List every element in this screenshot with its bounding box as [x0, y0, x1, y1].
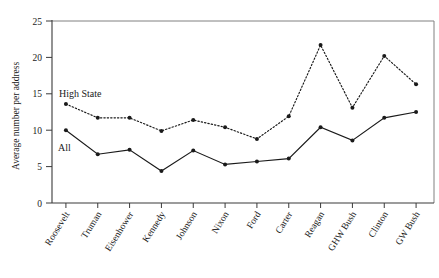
chart-container: Average number per address 0 5 10 15 20	[0, 0, 439, 278]
y-tick-label: 20	[33, 53, 43, 63]
data-point	[414, 110, 418, 114]
x-axis-category-label: Roosevelt	[43, 209, 72, 247]
x-axis-category-labels: RooseveltTrumanEisenhowerKennedyJohnsonN…	[43, 209, 422, 253]
y-axis-title: Average number per address	[11, 61, 21, 170]
series-label-all: All	[58, 142, 71, 153]
series-layer	[64, 43, 418, 173]
data-point	[319, 43, 323, 47]
series-line	[66, 45, 416, 139]
line-chart: Average number per address 0 5 10 15 20	[0, 0, 439, 278]
data-point	[287, 114, 291, 118]
data-point	[64, 128, 68, 132]
x-axis-category-label: Johnson	[174, 210, 199, 242]
data-point	[350, 106, 354, 110]
x-axis-category-label: Reagan	[303, 210, 327, 240]
data-point	[159, 169, 163, 173]
x-axis-category-label: Eisenhower	[103, 209, 136, 253]
data-point	[191, 149, 195, 153]
x-axis-category-label: GHW Bush	[326, 210, 358, 253]
y-tick-label: 15	[33, 89, 43, 99]
x-axis-category-label: Kennedy	[140, 210, 167, 245]
y-tick-label: 5	[37, 162, 42, 172]
data-point	[96, 152, 100, 156]
data-point	[287, 157, 291, 161]
x-axis-category-label: Nixon	[210, 210, 231, 236]
y-tick-label: 10	[33, 126, 43, 136]
series-high-state	[64, 43, 418, 141]
y-tick-label: 25	[33, 17, 43, 27]
series-all	[64, 110, 418, 173]
series-label-high-state: High State	[59, 88, 102, 99]
y-tick-5: 5	[37, 162, 52, 172]
data-point	[159, 129, 163, 133]
y-axis-ticks: 0 5 10 15 20 25	[33, 17, 53, 209]
y-tick-25: 25	[33, 17, 53, 27]
data-point	[255, 160, 259, 164]
y-tick-0: 0	[37, 199, 52, 209]
data-point	[414, 82, 418, 86]
data-point	[128, 116, 132, 120]
data-point	[319, 125, 323, 129]
x-axis-category-label: Ford	[245, 210, 263, 231]
y-tick-10: 10	[33, 126, 53, 136]
series-line	[66, 112, 416, 171]
data-point	[382, 54, 386, 58]
data-point	[96, 116, 100, 120]
x-axis-category-label: GW Bush	[393, 210, 422, 247]
y-tick-20: 20	[33, 53, 53, 63]
data-point	[382, 116, 386, 120]
data-point	[223, 162, 227, 166]
data-point	[255, 137, 259, 141]
y-tick-label: 0	[37, 199, 42, 209]
x-axis-category-label: Carter	[273, 209, 295, 235]
data-point	[191, 118, 195, 122]
data-point	[128, 148, 132, 152]
data-point	[350, 138, 354, 142]
x-axis-ticks	[66, 203, 416, 208]
data-point	[64, 102, 68, 106]
x-axis-category-label: Truman	[79, 210, 103, 241]
data-point	[223, 125, 227, 129]
x-axis-category-label: Clinton	[366, 210, 390, 240]
y-tick-15: 15	[33, 89, 53, 99]
